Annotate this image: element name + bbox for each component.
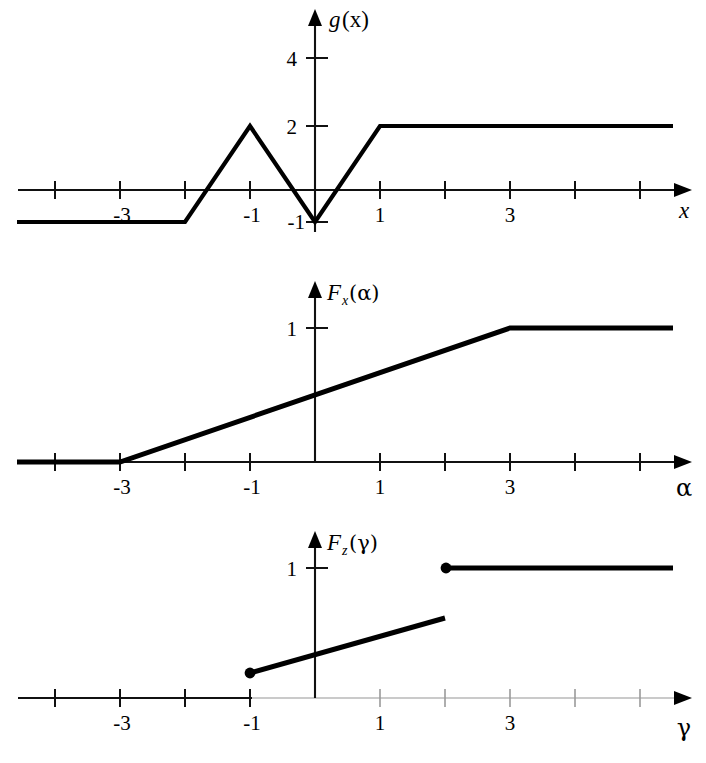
plot-Fz-x-axis-arrow <box>674 691 692 705</box>
plot-Fx-x-axis-arrow <box>674 455 692 469</box>
plot-Fz-closed-dot-left <box>245 668 256 679</box>
plot-Fx-ytick-label-one: 1 <box>287 317 298 341</box>
plot-Fx-func-name: F <box>326 280 342 305</box>
plot-Fx-y-axis-arrow <box>308 281 322 298</box>
plot-Fz-func-arg: (γ) <box>349 531 378 555</box>
plot-Fz-xtick-label-minus3: -3 <box>113 711 131 735</box>
plot-Fz-func-name: F <box>326 530 342 555</box>
plot-gx-ytick-label-minus1: -1 <box>288 210 306 234</box>
figure-root: -3 -1 1 3 4 2 -1 x g (x) <box>0 0 706 763</box>
plot-gx-y-axis-title: g (x) <box>329 7 369 32</box>
plot-gx-xtick-label-minus3: -3 <box>113 203 131 227</box>
plot-gx-ytick-label-four: 4 <box>287 47 298 71</box>
plot-Fz-ytick-label-one: 1 <box>287 557 298 581</box>
plot-Fz-xtick-label-three: 3 <box>505 711 516 735</box>
plot-Fz-x-axis-title: γ <box>677 714 691 742</box>
plot-Fx-y-axis-title: F x (α) <box>326 280 380 308</box>
plot-gx-func-arg: (x) <box>342 7 369 32</box>
plot-Fx-x-axis-title: α <box>676 474 692 502</box>
plot-Fx-func-arg: (α) <box>349 281 380 305</box>
plot-gx-y-axis-arrow <box>308 9 322 26</box>
plot-Fx-xtick-label-minus1: -1 <box>243 475 261 499</box>
plot-Fz-closed-dot-right <box>441 563 452 574</box>
plot-gx-x-axis-title: x <box>678 198 690 223</box>
plot-gx-y-ticks <box>306 58 328 222</box>
plot-gx-xtick-label-minus1: -1 <box>243 203 261 227</box>
plot-Fz-xtick-label-one: 1 <box>375 711 386 735</box>
plot-gx-x-axis-arrow <box>674 183 692 197</box>
figure-svg: -3 -1 1 3 4 2 -1 x g (x) <box>0 0 706 763</box>
plot-Fz: -3 -1 1 3 1 γ F z (γ) <box>18 530 692 742</box>
plot-Fz-xtick-label-minus1: -1 <box>243 711 261 735</box>
plot-gx: -3 -1 1 3 4 2 -1 x g (x) <box>17 7 692 234</box>
plot-Fx-xtick-label-minus3: -3 <box>113 475 131 499</box>
plot-gx-ytick-label-two: 2 <box>287 115 298 139</box>
plot-Fz-ramp-segment <box>250 618 445 673</box>
plot-gx-xtick-label-one: 1 <box>375 203 386 227</box>
plot-Fx-xtick-label-three: 3 <box>505 475 516 499</box>
plot-Fx-curve <box>17 328 673 462</box>
plot-Fz-func-subscript: z <box>341 543 348 558</box>
plot-Fz-y-axis-arrow <box>308 531 322 548</box>
plot-gx-func-name: g <box>329 7 341 32</box>
plot-Fx-func-subscript: x <box>341 293 349 308</box>
plot-Fx-xtick-label-one: 1 <box>375 475 386 499</box>
plot-Fx: -3 -1 1 3 1 α F x (α) <box>17 280 692 502</box>
plot-Fz-y-axis-title: F z (γ) <box>326 530 378 558</box>
plot-gx-xtick-label-three: 3 <box>505 203 516 227</box>
